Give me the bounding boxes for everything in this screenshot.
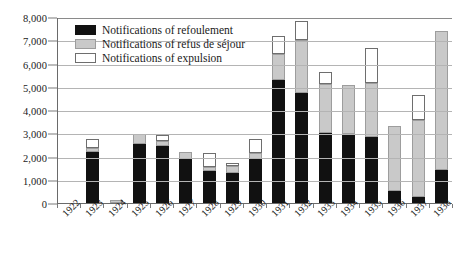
y-axis-tick-mark: [48, 134, 57, 135]
bar-segment-expulsion: [249, 139, 262, 153]
legend-swatch-refoulement: [75, 25, 96, 35]
bar-segment-expulsion: [203, 153, 216, 166]
bar-segment-refus-de-sejour: [365, 83, 378, 138]
bar-segment-refoulement: [156, 146, 169, 203]
x-axis-tick-mark: [336, 204, 337, 208]
bar-segment-refoulement: [319, 133, 332, 203]
y-axis-tick-mark: [48, 18, 57, 19]
bar-segment-refoulement: [86, 152, 99, 203]
y-axis-tick-mark: [48, 87, 57, 88]
x-axis-tick-mark: [173, 204, 174, 208]
bar-segment-refus-de-sejour: [319, 84, 332, 133]
x-axis-tick-mark: [220, 204, 221, 208]
x-axis-tick-mark: [452, 204, 453, 208]
chart-legend: Notifications of refoulement Notificatio…: [75, 24, 245, 64]
bar-segment-refoulement: [342, 134, 355, 203]
legend-swatch-refus-de-sejour: [75, 39, 96, 49]
y-axis-tick-label: 1,000: [23, 175, 47, 186]
bar-segment-refus-de-sejour: [435, 31, 448, 171]
y-axis-tick-label: 4,000: [23, 106, 47, 117]
bar-segment-refus-de-sejour: [272, 54, 285, 80]
legend-item-refoulement: Notifications of refoulement: [75, 24, 245, 36]
bar-segment-refoulement: [295, 93, 308, 203]
legend-item-refus-de-sejour: Notifications of refus de séjour: [75, 38, 245, 50]
gridline: [58, 158, 452, 159]
y-axis-tick-mark: [48, 157, 57, 158]
x-axis-tick-mark: [382, 204, 383, 208]
x-axis-tick-mark: [196, 204, 197, 208]
x-axis-tick-mark: [429, 204, 430, 208]
x-axis-tick-mark: [243, 204, 244, 208]
bar-segment-expulsion: [295, 21, 308, 41]
x-axis-tick-mark: [313, 204, 314, 208]
bar-segment-refoulement: [133, 144, 146, 203]
x-axis: 1922192319241925192619271928192919301931…: [57, 204, 452, 256]
y-axis-tick-label: 3,000: [23, 129, 47, 140]
x-axis-tick-mark: [80, 204, 81, 208]
gridline: [58, 65, 452, 66]
y-axis-tick-mark: [48, 204, 57, 205]
bar-segment-refus-de-sejour: [133, 134, 146, 144]
x-axis-tick-mark: [103, 204, 104, 208]
y-axis-tick-mark: [48, 41, 57, 42]
x-axis-tick-mark: [127, 204, 128, 208]
legend-item-expulsion: Notifications of expulsion: [75, 52, 245, 64]
gridline: [58, 111, 452, 112]
bar-segment-refoulement: [272, 80, 285, 203]
bar-segment-expulsion: [412, 95, 425, 121]
bar-segment-expulsion: [319, 72, 332, 84]
y-axis-tick-label: 2,000: [23, 152, 47, 163]
y-axis-tick-label: 6,000: [23, 59, 47, 70]
bar-segment-refus-de-sejour: [295, 40, 308, 92]
y-axis-tick-label: 5,000: [23, 82, 47, 93]
bar-segment-refoulement: [365, 137, 378, 203]
y-axis-tick-label: 0: [42, 199, 47, 210]
x-axis-tick-mark: [359, 204, 360, 208]
bar-segment-expulsion: [86, 139, 99, 148]
bar-segment-refus-de-sejour: [226, 166, 239, 174]
gridline: [58, 88, 452, 89]
bar-segment-expulsion: [272, 36, 285, 55]
y-axis: 01,0002,0003,0004,0005,0006,0007,0008,00…: [0, 0, 57, 204]
gridline: [58, 134, 452, 135]
x-axis-tick-mark: [406, 204, 407, 208]
y-axis-tick-label: 8,000: [23, 13, 47, 24]
x-axis-tick-mark: [289, 204, 290, 208]
gridline: [58, 181, 452, 182]
y-axis-tick-mark: [48, 180, 57, 181]
bar-segment-refus-de-sejour: [342, 85, 355, 135]
bar-segment-refus-de-sejour: [412, 120, 425, 197]
y-axis-tick-mark: [48, 111, 57, 112]
legend-label-refoulement: Notifications of refoulement: [102, 24, 233, 36]
legend-swatch-expulsion: [75, 53, 96, 63]
x-axis-tick-mark: [150, 204, 151, 208]
x-axis-tick-mark: [57, 204, 58, 208]
y-axis-tick-label: 7,000: [23, 36, 47, 47]
y-axis-tick-mark: [48, 64, 57, 65]
chart-container: 01,0002,0003,0004,0005,0006,0007,0008,00…: [0, 0, 464, 256]
legend-label-refus-de-sejour: Notifications of refus de séjour: [102, 38, 245, 50]
legend-label-expulsion: Notifications of expulsion: [102, 52, 222, 64]
x-axis-tick-mark: [266, 204, 267, 208]
